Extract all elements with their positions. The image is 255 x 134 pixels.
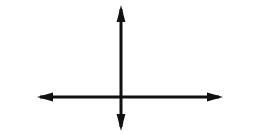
figure-background [0,0,255,134]
coordinate-axes-figure [0,0,255,134]
axes-diagram [0,0,255,134]
